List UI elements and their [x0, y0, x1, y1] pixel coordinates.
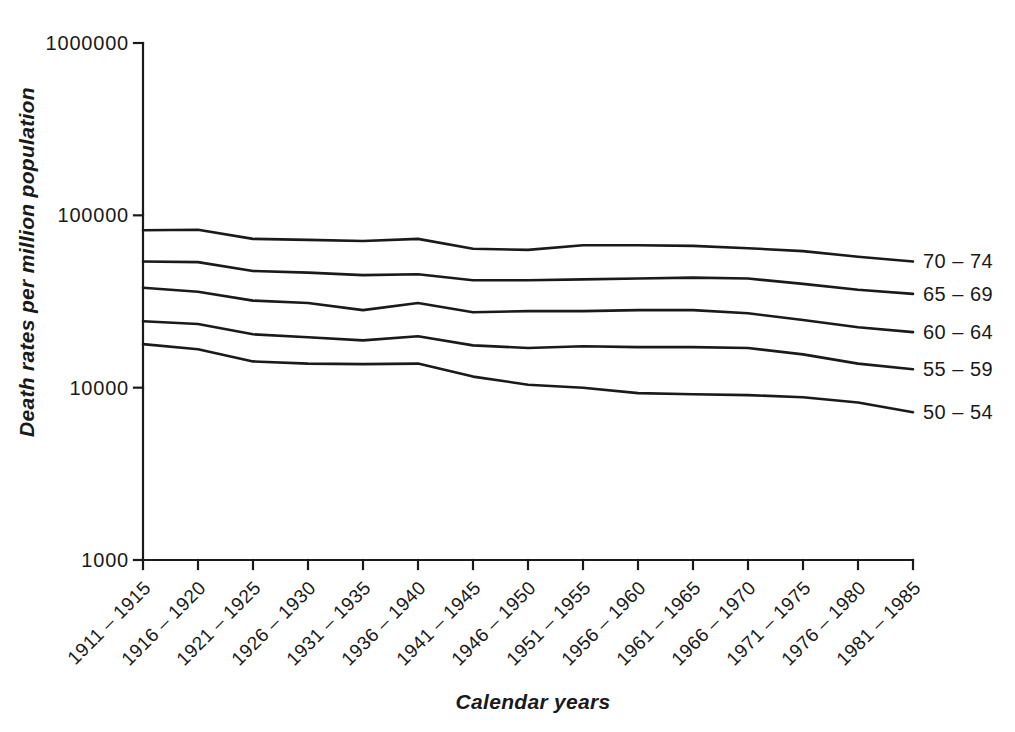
series-label-55-59: 55 – 59: [923, 358, 993, 380]
series-label-65-69: 65 – 69: [923, 283, 993, 305]
y-tick-label: 10000: [69, 377, 129, 399]
scanned-chart-page: 10001000010000010000001911 – 19151916 – …: [0, 0, 1015, 732]
series-line-60-64: [143, 288, 913, 332]
chart-canvas: 10001000010000010000001911 – 19151916 – …: [0, 0, 1015, 732]
series-label-60-64: 60 – 64: [923, 321, 993, 343]
series-label-70-74: 70 – 74: [923, 250, 993, 272]
y-tick-label: 100000: [57, 204, 129, 226]
x-axis-title: Calendar years: [456, 690, 611, 713]
series-label-50-54: 50 – 54: [923, 401, 993, 423]
series-line-70-74: [143, 230, 913, 262]
y-axis-title: Death rates per million population: [15, 87, 38, 437]
y-tick-label: 1000: [81, 549, 129, 571]
y-tick-label: 1000000: [46, 32, 129, 54]
series-line-65-69: [143, 262, 913, 294]
